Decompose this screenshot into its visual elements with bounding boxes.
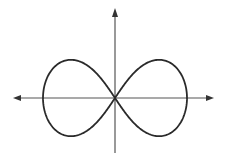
y-axis-up-arrow-icon [112,8,118,17]
lemniscate-diagram [0,0,225,153]
y-axis [112,8,118,153]
x-axis-left-arrow-icon [13,95,21,101]
x-axis-right-arrow-icon [206,95,214,101]
